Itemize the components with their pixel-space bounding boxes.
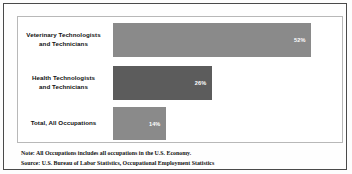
- bar-track: 26%: [113, 62, 342, 104]
- category-label: Total, All Occupations: [18, 119, 113, 128]
- bar-row: Veterinary Technologists and Technicians…: [18, 19, 342, 61]
- bar-row: Total, All Occupations 14%: [18, 105, 342, 142]
- bar-value-label: 14%: [149, 121, 161, 127]
- bar-track: 52%: [113, 19, 342, 61]
- category-label-line1: Total, All Occupations: [18, 119, 109, 128]
- bar-value-label: 26%: [195, 80, 207, 86]
- plot-area: Veterinary Technologists and Technicians…: [17, 16, 343, 143]
- source-text: Source: U.S. Bureau of Labor Statistics,…: [21, 159, 331, 169]
- bar-total-all-occupations: 14%: [113, 107, 166, 140]
- category-label-line2: and Technicians: [18, 40, 109, 49]
- category-label-line2: and Technicians: [18, 83, 109, 92]
- footnotes: Note: All Occupations includes all occup…: [21, 149, 331, 168]
- category-label-line1: Health Technologists: [18, 74, 109, 83]
- category-label: Health Technologists and Technicians: [18, 74, 113, 92]
- bar-rows: Veterinary Technologists and Technicians…: [18, 17, 342, 142]
- category-label: Veterinary Technologists and Technicians: [18, 31, 113, 49]
- bar-value-label: 52%: [294, 37, 306, 43]
- figure-outer-border: Veterinary Technologists and Technicians…: [3, 3, 347, 170]
- bar-row: Health Technologists and Technicians 26%: [18, 62, 342, 104]
- bar-track: 14%: [113, 105, 342, 142]
- bar-veterinary-technologists: 52%: [113, 23, 311, 57]
- bar-health-technologists: 26%: [113, 66, 212, 100]
- category-label-line1: Veterinary Technologists: [18, 31, 109, 40]
- note-text: Note: All Occupations includes all occup…: [21, 149, 331, 159]
- bar-chart-figure: Veterinary Technologists and Technicians…: [0, 0, 352, 174]
